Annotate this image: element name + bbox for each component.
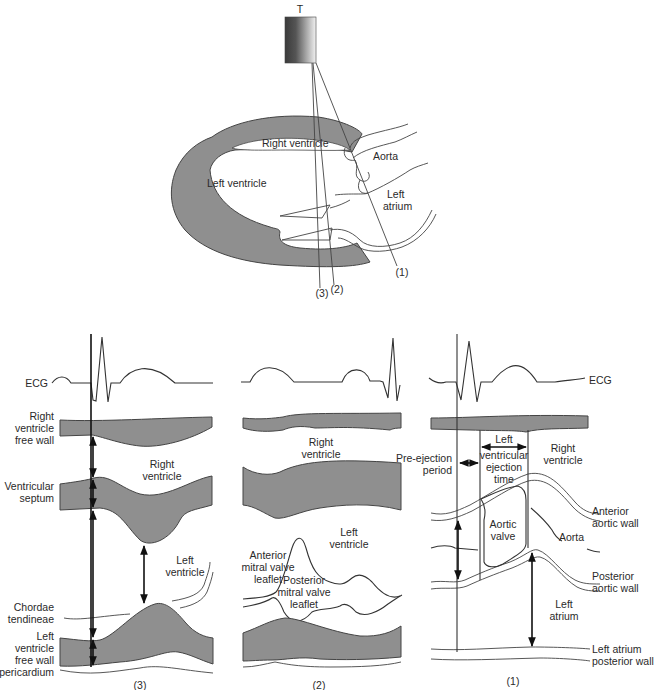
label-lv-ejection-4: time bbox=[494, 473, 514, 485]
label-septum-2: septum bbox=[20, 492, 55, 504]
label-pre-ejection-2: period bbox=[423, 464, 452, 476]
m-mode-panel-2: Right ventricle Left ventricle Anterior … bbox=[241, 338, 402, 690]
label-posterior-aortic-wall-2: aortic wall bbox=[592, 582, 639, 594]
label-anterior-mitral-2: mitral valve bbox=[241, 561, 294, 573]
label-chordae-2: tendineae bbox=[8, 613, 54, 625]
label-anterior-mitral-3: leaflet bbox=[254, 573, 282, 585]
anterior-mitral-leaflet bbox=[330, 193, 368, 208]
septum-band-3 bbox=[60, 476, 212, 543]
m-mode-echocardiography-diagram: T Right ventricle Left ventricle Aorta L… bbox=[0, 0, 655, 690]
beam-2-label: (2) bbox=[331, 283, 344, 295]
label-right-ventricle-3a: Right bbox=[150, 458, 175, 470]
label-right-ventricle-1b: ventricle bbox=[543, 454, 582, 466]
label-anterior-mitral-1: Anterior bbox=[250, 549, 287, 561]
rv-free-wall-band-1 bbox=[431, 415, 588, 432]
heart-left-atrium-label-1: Left bbox=[387, 188, 405, 200]
posterior-mitral-leaflet-trace bbox=[243, 595, 402, 621]
label-septum-1: Ventricular bbox=[4, 480, 54, 492]
chordae-tendineae-upper bbox=[280, 205, 330, 218]
transducer-icon bbox=[285, 17, 316, 63]
ecg-trace-panel-1 bbox=[429, 341, 585, 402]
label-pre-ejection-1: Pre-ejection bbox=[396, 452, 452, 464]
label-posterior-mitral-1: Posterior bbox=[283, 574, 326, 586]
label-right-ventricle-2a: Right bbox=[309, 436, 334, 448]
heart-cross-section: T Right ventricle Left ventricle Aorta L… bbox=[171, 3, 436, 299]
label-left-ventricle-2a: Left bbox=[340, 526, 358, 538]
label-lv-ejection-1: Left bbox=[495, 433, 513, 445]
aorta-tail-trace bbox=[587, 549, 600, 552]
label-aortic-valve-1: Aortic bbox=[490, 518, 517, 530]
aorta-posterior-cusp-trace bbox=[531, 508, 562, 541]
panel-1-caption: (1) bbox=[507, 675, 520, 687]
la-posterior-wall-inner bbox=[431, 658, 590, 661]
heart-left-atrium-label-2: atrium bbox=[383, 200, 412, 212]
pericardium-trace-3 bbox=[60, 667, 213, 673]
ecg-trace-panel-3 bbox=[52, 337, 213, 402]
septum-band-2 bbox=[243, 461, 401, 518]
heart-aorta-label: Aorta bbox=[373, 150, 398, 162]
lv-free-wall-band-3 bbox=[60, 603, 213, 666]
label-la-posterior-wall-2: posterior wall bbox=[592, 655, 654, 667]
label-right-ventricle-2b: ventricle bbox=[301, 448, 340, 460]
label-anterior-aortic-wall-1: Anterior bbox=[592, 505, 629, 517]
label-right-ventricle-1a: Right bbox=[551, 442, 576, 454]
label-left-ventricle-3a: Left bbox=[176, 554, 194, 566]
posterior-aortic-wall-inner bbox=[431, 557, 600, 591]
label-posterior-mitral-3: leaflet bbox=[290, 598, 318, 610]
m-mode-panel-3: ECG Right ventricle free wall Right vent… bbox=[0, 334, 213, 690]
heart-left-ventricle-label: Left ventricle bbox=[207, 177, 267, 189]
label-rv-free-wall-2: ventricle bbox=[15, 422, 54, 434]
label-lv-ejection-2: ventricular bbox=[480, 449, 529, 461]
label-posterior-aortic-wall-1: Posterior bbox=[592, 570, 635, 582]
label-lv-ejection-3: ejection bbox=[486, 461, 522, 473]
label-aortic-valve-2: valve bbox=[491, 530, 516, 542]
label-aorta-1: Aorta bbox=[559, 531, 584, 543]
label-anterior-aortic-wall-2: aortic wall bbox=[592, 517, 639, 529]
transducer-label: T bbox=[297, 3, 304, 15]
la-posterior-wall-outer bbox=[431, 647, 590, 650]
panel-2-caption: (2) bbox=[313, 679, 326, 690]
label-left-atrium-1a: Left bbox=[555, 598, 573, 610]
label-left-atrium-1b: atrium bbox=[549, 610, 578, 622]
m-mode-panel-1: ECG Aortic valve Aorta Pre-ejection peri… bbox=[396, 334, 654, 687]
heart-right-ventricle-label: Right ventricle bbox=[262, 137, 329, 149]
chordae-tendineae-lower bbox=[282, 228, 332, 240]
pericardium-trace-2 bbox=[243, 662, 401, 667]
anterior-aortic-wall-outer bbox=[431, 473, 600, 514]
aortic-valve-diastolic-trace bbox=[431, 546, 478, 550]
ecg-label-right: ECG bbox=[589, 374, 612, 386]
label-la-posterior-wall-1: Left atrium bbox=[592, 643, 642, 655]
label-left-ventricle-3b: ventricle bbox=[165, 566, 204, 578]
label-rv-free-wall-3: free wall bbox=[15, 434, 54, 446]
rv-free-wall-band-3 bbox=[60, 417, 212, 446]
beam-3-label: (3) bbox=[316, 287, 329, 299]
ecg-label-left: ECG bbox=[25, 377, 48, 389]
label-right-ventricle-3b: ventricle bbox=[142, 470, 181, 482]
panel-3-caption: (3) bbox=[134, 679, 147, 690]
label-lv-free-wall-2: ventricle bbox=[15, 642, 54, 654]
beam-1-label: (1) bbox=[396, 266, 409, 278]
left-atrium-wall-outer bbox=[330, 210, 432, 246]
label-posterior-mitral-2: mitral valve bbox=[277, 586, 330, 598]
rv-free-wall-band-2 bbox=[243, 413, 401, 431]
lv-free-wall-band-2 bbox=[243, 618, 401, 661]
label-chordae-1: Chordae bbox=[14, 601, 54, 613]
label-rv-free-wall-1: Right bbox=[29, 410, 54, 422]
beam-1-line bbox=[316, 63, 397, 266]
label-pericardium: pericardium bbox=[0, 666, 54, 678]
chordae-trace-3 bbox=[64, 614, 130, 619]
label-lv-free-wall-1: Left bbox=[36, 630, 54, 642]
label-left-ventricle-2b: ventricle bbox=[329, 538, 368, 550]
ecg-trace-panel-2 bbox=[241, 338, 400, 401]
label-lv-free-wall-3: free wall bbox=[15, 654, 54, 666]
